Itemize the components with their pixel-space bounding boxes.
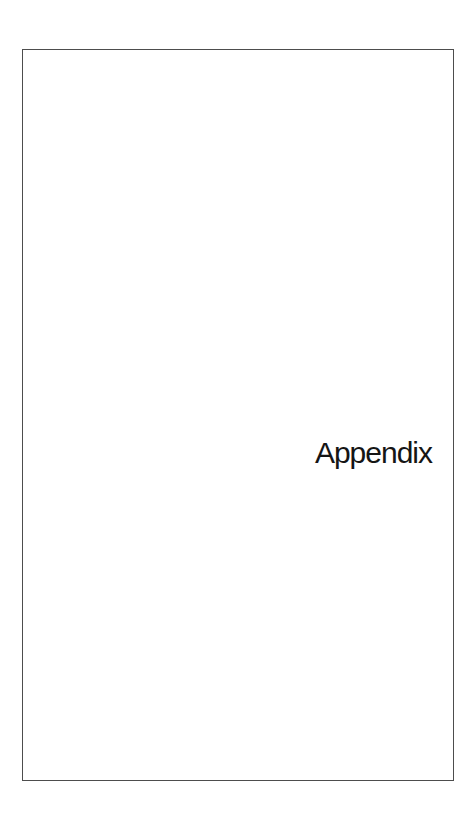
page-border-frame: Appendix [22,49,454,781]
appendix-heading: Appendix [315,438,432,468]
